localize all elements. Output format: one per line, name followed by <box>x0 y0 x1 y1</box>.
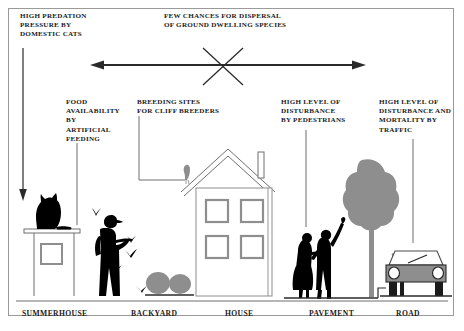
person-feeding-birds-icon <box>95 215 133 296</box>
bushes-icon <box>146 272 191 294</box>
house-window-icon <box>206 200 228 222</box>
house-icon <box>181 149 275 296</box>
urban-gradient-diagram: HIGH PREDATION PRESSURE BY DOMESTIC CATS… <box>0 0 464 331</box>
summerhouse-icon <box>24 229 80 296</box>
cat-silhouette-icon <box>36 193 72 230</box>
house-window-icon <box>241 200 263 222</box>
perched-bird-icon <box>184 165 190 184</box>
connector-breeding <box>139 116 185 180</box>
down-arrow-icon <box>19 48 27 201</box>
car-front-icon <box>386 251 446 296</box>
house-window-icon <box>206 236 228 258</box>
summerhouse-window-icon <box>41 244 62 264</box>
house-window-icon <box>241 236 263 258</box>
pedestrians-icon <box>293 217 346 299</box>
cross-out-x-icon <box>203 48 243 85</box>
